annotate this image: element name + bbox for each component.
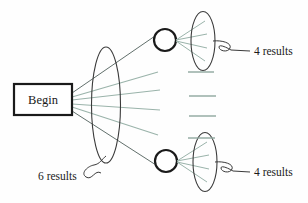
fan-line-stub-3 xyxy=(72,104,160,110)
start-node[interactable]: Begin xyxy=(14,84,72,115)
bottom-branch-lens xyxy=(193,133,217,192)
start-node-label: Begin xyxy=(28,93,59,107)
diagram-canvas: Begin xyxy=(0,0,308,203)
bottom-branch-node[interactable] xyxy=(155,150,177,172)
top-branch-count-label: 4 results xyxy=(254,45,293,57)
first-level-lens xyxy=(92,47,121,163)
fan-line-to-bottom-node xyxy=(72,111,156,165)
first-level-count-label: 6 results xyxy=(38,170,77,182)
top-branch-node[interactable] xyxy=(154,29,176,51)
middle-unexpanded-stubs xyxy=(188,72,216,138)
bottom-branch-count-annotation: 4 results xyxy=(215,162,293,178)
diagram-svg: Begin xyxy=(0,0,308,203)
first-level-count-pointer xyxy=(84,156,106,178)
bottom-branch-count-pointer xyxy=(215,162,250,172)
bottom-branch-count-label: 4 results xyxy=(254,166,293,178)
fan-line-stub-2 xyxy=(72,90,160,100)
top-branch-count-pointer xyxy=(213,41,250,51)
top-branch-count-annotation: 4 results xyxy=(213,41,293,57)
first-level-count-annotation: 6 results xyxy=(38,156,106,182)
fan-line-stub-4 xyxy=(72,107,158,135)
top-branch-lens xyxy=(191,12,215,71)
